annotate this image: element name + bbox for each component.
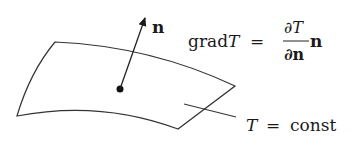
- svg-text:=: =: [266, 115, 280, 135]
- gradient-formula: grad T = ∂T ∂n n: [188, 18, 322, 64]
- isothermal-surface: [17, 42, 235, 129]
- svg-text:const: const: [290, 115, 336, 135]
- normal-label: n: [152, 17, 164, 37]
- svg-text:∂T: ∂T: [284, 18, 304, 37]
- surface-label-leader: [184, 104, 236, 117]
- svg-text:∂n: ∂n: [284, 45, 305, 64]
- svg-text:T: T: [228, 31, 241, 51]
- svg-text:n: n: [310, 31, 322, 51]
- svg-text:=: =: [250, 31, 264, 51]
- gradient-diagram: n grad T = ∂T ∂n n T = const: [0, 0, 361, 149]
- svg-text:grad: grad: [188, 31, 228, 51]
- surface-label: T = const: [246, 115, 336, 135]
- svg-text:T: T: [246, 115, 259, 135]
